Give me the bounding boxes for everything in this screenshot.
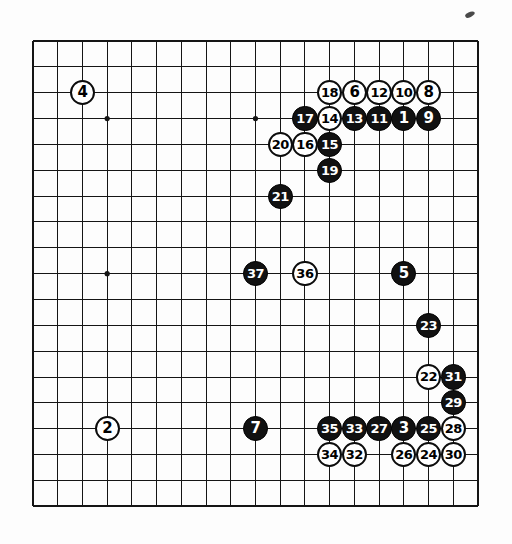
go-stone-4[interactable]: 4 xyxy=(70,80,95,105)
go-stone-33[interactable]: 33 xyxy=(342,416,367,441)
go-stone-label: 5 xyxy=(392,262,415,285)
go-stone-label: 33 xyxy=(343,417,366,440)
go-stone-35[interactable]: 35 xyxy=(317,416,342,441)
go-stone-25[interactable]: 25 xyxy=(416,416,441,441)
go-stone-label: 11 xyxy=(367,107,390,130)
go-stone-label: 16 xyxy=(294,134,315,155)
go-stone-30[interactable]: 30 xyxy=(441,442,466,467)
go-stone-27[interactable]: 27 xyxy=(366,416,391,441)
go-stone-32[interactable]: 32 xyxy=(342,442,367,467)
go-stone-26[interactable]: 26 xyxy=(391,442,416,467)
go-stone-14[interactable]: 14 xyxy=(317,106,342,131)
go-stone-label: 29 xyxy=(442,391,465,414)
go-stone-label: 32 xyxy=(344,444,365,465)
go-stone-5[interactable]: 5 xyxy=(391,261,416,286)
go-stone-label: 12 xyxy=(368,82,389,103)
go-stone-13[interactable]: 13 xyxy=(342,106,367,131)
go-stone-label: 30 xyxy=(443,444,464,465)
go-stone-label: 20 xyxy=(270,134,291,155)
go-stone-label: 4 xyxy=(72,82,93,103)
go-stone-label: 3 xyxy=(392,417,415,440)
go-stone-15[interactable]: 15 xyxy=(317,132,342,157)
go-stone-label: 19 xyxy=(318,159,341,182)
go-stone-label: 22 xyxy=(418,366,439,387)
diagram-page: 1234567891011121314151617181920212223242… xyxy=(0,0,512,544)
go-stone-label: 15 xyxy=(318,133,341,156)
go-stone-label: 14 xyxy=(319,108,340,129)
go-stone-label: 24 xyxy=(418,444,439,465)
go-stone-label: 34 xyxy=(319,444,340,465)
go-stone-11[interactable]: 11 xyxy=(366,106,391,131)
go-stone-22[interactable]: 22 xyxy=(416,364,441,389)
go-stone-label: 8 xyxy=(418,82,439,103)
go-stone-label: 17 xyxy=(293,107,316,130)
go-stone-23[interactable]: 23 xyxy=(416,313,441,338)
go-stone-29[interactable]: 29 xyxy=(441,390,466,415)
go-stone-label: 2 xyxy=(97,418,118,439)
go-stone-1[interactable]: 1 xyxy=(391,106,416,131)
go-stone-20[interactable]: 20 xyxy=(268,132,293,157)
go-stone-12[interactable]: 12 xyxy=(366,80,391,105)
go-stone-24[interactable]: 24 xyxy=(416,442,441,467)
go-stone-6[interactable]: 6 xyxy=(342,80,367,105)
go-stone-21[interactable]: 21 xyxy=(268,184,293,209)
go-stone-label: 6 xyxy=(344,82,365,103)
go-stone-label: 37 xyxy=(244,262,267,285)
go-stone-label: 13 xyxy=(343,107,366,130)
go-stone-10[interactable]: 10 xyxy=(391,80,416,105)
go-stone-label: 28 xyxy=(443,418,464,439)
go-stone-label: 36 xyxy=(294,263,315,284)
go-board[interactable]: 1234567891011121314151617181920212223242… xyxy=(0,0,512,544)
go-stone-31[interactable]: 31 xyxy=(441,364,466,389)
go-stone-7[interactable]: 7 xyxy=(243,416,268,441)
go-stone-18[interactable]: 18 xyxy=(317,80,342,105)
go-stone-label: 27 xyxy=(367,417,390,440)
go-stone-label: 1 xyxy=(392,107,415,130)
go-stone-34[interactable]: 34 xyxy=(317,442,342,467)
go-stone-label: 9 xyxy=(417,107,440,130)
go-stone-label: 7 xyxy=(244,417,267,440)
go-stone-label: 10 xyxy=(393,82,414,103)
go-stone-37[interactable]: 37 xyxy=(243,261,268,286)
go-stone-3[interactable]: 3 xyxy=(391,416,416,441)
go-stone-label: 23 xyxy=(417,314,440,337)
go-stone-36[interactable]: 36 xyxy=(292,261,317,286)
go-stone-8[interactable]: 8 xyxy=(416,80,441,105)
go-stone-19[interactable]: 19 xyxy=(317,158,342,183)
go-stone-label: 31 xyxy=(442,365,465,388)
go-stone-9[interactable]: 9 xyxy=(416,106,441,131)
go-stone-label: 26 xyxy=(393,444,414,465)
go-stone-17[interactable]: 17 xyxy=(292,106,317,131)
go-stone-label: 35 xyxy=(318,417,341,440)
go-stone-2[interactable]: 2 xyxy=(95,416,120,441)
go-stone-label: 25 xyxy=(417,417,440,440)
go-stone-16[interactable]: 16 xyxy=(292,132,317,157)
go-stone-28[interactable]: 28 xyxy=(441,416,466,441)
go-stone-label: 21 xyxy=(269,185,292,208)
go-stone-label: 18 xyxy=(319,82,340,103)
